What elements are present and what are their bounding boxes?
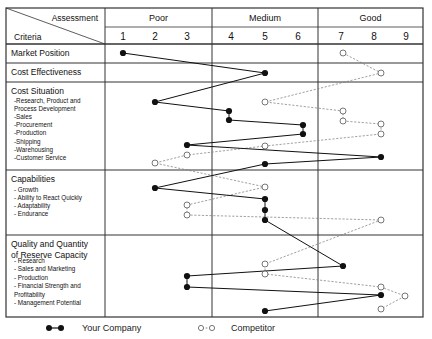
group-label-medium: Medium (249, 13, 281, 23)
your-company-point (226, 108, 232, 114)
section-title: Capabilities (11, 174, 55, 184)
section-item-label: -Shipping (14, 138, 41, 146)
open-dot-line-icon (196, 323, 220, 333)
your-company-point (184, 142, 190, 148)
score-label-2: 2 (152, 31, 158, 42)
your-company-point (184, 284, 190, 290)
group-label-good: Good (359, 13, 381, 23)
score-label-6: 6 (295, 31, 301, 42)
your-company-point (184, 273, 190, 279)
your-company-point (300, 131, 306, 137)
score-label-8: 8 (371, 31, 377, 42)
your-company-point (262, 161, 268, 167)
section-title: Cost Effectiveness (11, 67, 81, 77)
your-company-point (262, 207, 268, 213)
section-item-label: -Sales (14, 113, 32, 120)
section-item-label: - Ability to React Quickly (14, 194, 83, 202)
section-item-label: - Adaptability (14, 202, 51, 210)
your-company-point (152, 99, 158, 105)
competitor-point (262, 99, 268, 105)
competitor-point (378, 284, 384, 290)
section-item-label: -Production (14, 129, 47, 136)
your-company-point (226, 117, 232, 123)
competitor-point (378, 70, 384, 76)
your-company-point (262, 196, 268, 202)
competitor-point (378, 121, 384, 127)
your-company-point (120, 50, 126, 56)
competitor-point (262, 184, 268, 190)
competitor-point (262, 271, 268, 277)
section-item-label: -Customer Service (14, 154, 67, 161)
competitor-point (378, 217, 384, 223)
section-title: Cost Situation (11, 86, 64, 96)
competitor-point (340, 118, 346, 124)
legend-your-company: Your Company (44, 318, 141, 338)
competitor-point (340, 50, 346, 56)
legend-label-competitor: Competitor (231, 323, 275, 333)
score-label-9: 9 (403, 31, 409, 42)
section-item-label: - Financial Strength and (14, 282, 81, 290)
score-label-7: 7 (338, 31, 344, 42)
profile-chart: AssessmentCriteriaPoor123Medium456Good78… (0, 0, 432, 339)
group-label-poor: Poor (149, 13, 168, 23)
competitor-point (184, 212, 190, 218)
your-company-point (340, 263, 346, 269)
competitor-point (378, 306, 384, 312)
section-item-label: - Research (14, 257, 45, 264)
competitor-point (152, 160, 158, 166)
competitor-point (262, 143, 268, 149)
your-company-point (152, 185, 158, 191)
your-company-point (378, 292, 384, 298)
section-item-label: Profitability (14, 291, 46, 299)
section-item-label: - Growth (14, 186, 39, 193)
section-item-label: -Warehousing (14, 146, 53, 154)
legend-label-your-company: Your Company (82, 323, 141, 333)
score-label-3: 3 (184, 31, 190, 42)
section-item-label: - Sales and Marketing (14, 265, 76, 273)
section-item-label: -Procurement (14, 121, 52, 128)
competitor-point (184, 202, 190, 208)
your-company-line (123, 53, 381, 311)
your-company-point (378, 154, 384, 160)
section-title: Market Position (11, 48, 70, 58)
competitor-point (378, 131, 384, 137)
competitor-line (155, 53, 405, 309)
section-item-label: - Endurance (14, 210, 49, 217)
competitor-point (262, 261, 268, 267)
your-company-point (300, 122, 306, 128)
your-company-point (262, 308, 268, 314)
assessment-label: Assessment (52, 13, 99, 23)
section-item-label: - Management Potential (14, 299, 81, 307)
competitor-point (340, 108, 346, 114)
section-item-label: - Production (14, 274, 48, 281)
score-label-5: 5 (262, 31, 268, 42)
criteria-label: Criteria (14, 32, 42, 42)
your-company-point (262, 70, 268, 76)
competitor-point (184, 152, 190, 158)
filled-dot-line-icon (44, 323, 68, 333)
score-label-1: 1 (120, 31, 126, 42)
section-item-label: -Research, Product and (14, 97, 81, 104)
score-label-4: 4 (228, 31, 234, 42)
section-title: Quality and Quantity (11, 239, 89, 249)
section-item-label: Process Development (14, 105, 76, 113)
competitor-point (402, 293, 408, 299)
legend-competitor: Competitor (196, 318, 275, 338)
your-company-point (262, 217, 268, 223)
